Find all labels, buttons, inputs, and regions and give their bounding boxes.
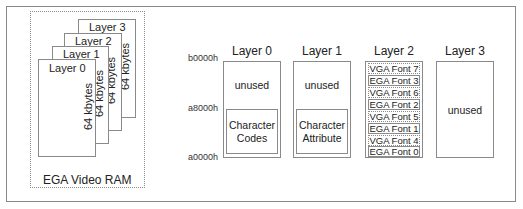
character-codes-line2: Codes bbox=[227, 132, 277, 145]
address-a8000h: a8000h bbox=[188, 103, 218, 113]
address-b0000h: b0000h bbox=[188, 53, 218, 63]
font-slot-vga-5: VGA Font 5 bbox=[368, 111, 420, 122]
character-attribute-line2: Attribute bbox=[297, 132, 347, 145]
layer-0-unused: unused bbox=[224, 79, 280, 92]
layer-1-box: unused Character Attribute bbox=[293, 61, 351, 158]
layer-0-title: Layer 0 bbox=[223, 44, 281, 58]
font-slot-ega-0: EGA Font 0 bbox=[368, 146, 420, 157]
ega-video-ram-caption: EGA Video RAM bbox=[43, 173, 132, 187]
font-slot-vga-6: VGA Font 6 bbox=[368, 87, 420, 98]
font-slot-ega-3: EGA Font 3 bbox=[368, 75, 420, 86]
layer-1-unused: unused bbox=[294, 79, 350, 92]
layer-3-unused: unused bbox=[437, 104, 493, 117]
character-codes-line1: Character bbox=[227, 119, 277, 132]
layer-0-box: unused Character Codes bbox=[223, 61, 281, 158]
stack-layer-0-size: 64 kbytes bbox=[82, 83, 94, 130]
character-attribute-line1: Character bbox=[297, 119, 347, 132]
stack-layer-0: Layer 0 64 kbytes bbox=[38, 59, 96, 157]
font-slot-ega-1: EGA Font 1 bbox=[368, 123, 420, 134]
layer-1-title: Layer 1 bbox=[293, 44, 351, 58]
address-a0000h: a0000h bbox=[188, 152, 218, 162]
font-slot-vga-4: VGA Font 4 bbox=[368, 135, 420, 146]
font-slot-ega-2: EGA Font 2 bbox=[368, 99, 420, 110]
character-attribute-region: Character Attribute bbox=[296, 109, 348, 154]
layer-2-box: VGA Font 7 EGA Font 3 VGA Font 6 EGA Fon… bbox=[365, 61, 423, 158]
font-slot-vga-7: VGA Font 7 bbox=[368, 63, 420, 74]
stack-layer-3-title: Layer 3 bbox=[89, 21, 126, 33]
character-codes-region: Character Codes bbox=[226, 109, 278, 154]
stack-layer-0-title: Layer 0 bbox=[49, 62, 86, 74]
layer-3-title: Layer 3 bbox=[436, 44, 494, 58]
layer-2-title: Layer 2 bbox=[365, 44, 423, 58]
layer-3-box: unused bbox=[436, 61, 494, 158]
